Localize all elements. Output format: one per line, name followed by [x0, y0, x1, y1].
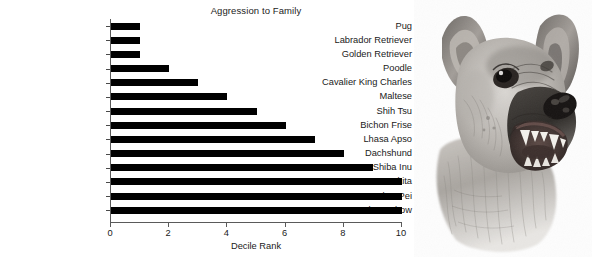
x-axis-tick-label: 4: [214, 228, 238, 238]
bar: [111, 178, 402, 185]
y-axis-tick: [106, 83, 110, 84]
y-axis-tick: [106, 54, 110, 55]
x-axis-tick-label: 0: [98, 228, 122, 238]
y-axis-tick: [106, 139, 110, 140]
x-axis-title: Decile Rank: [110, 241, 402, 251]
bar-chart-panel: Aggression to Family PugLabrador Retriev…: [0, 0, 412, 257]
x-axis-line: [110, 222, 402, 223]
dog-illustration-panel: [414, 0, 592, 257]
category-label: Golden Retriever: [308, 49, 412, 59]
y-axis-tick: [106, 196, 110, 197]
bar: [111, 65, 169, 72]
y-axis-tick: [106, 125, 110, 126]
bar: [111, 93, 227, 100]
x-axis-tick-label: 10: [389, 228, 413, 238]
category-label: Bichon Frise: [308, 120, 412, 130]
x-axis-tick: [226, 223, 227, 227]
category-label: Pug: [308, 21, 412, 31]
y-axis-tick: [106, 26, 110, 27]
y-axis-tick: [106, 69, 110, 70]
x-axis-tick: [343, 223, 344, 227]
bar: [111, 122, 286, 129]
y-axis-tick: [106, 168, 110, 169]
x-axis-tick: [285, 223, 286, 227]
y-axis-tick: [106, 97, 110, 98]
y-axis-tick: [106, 111, 110, 112]
category-label: Poodle: [308, 63, 412, 73]
y-axis-tick: [106, 210, 110, 211]
x-axis-tick: [401, 223, 402, 227]
x-axis-tick-label: 2: [156, 228, 180, 238]
bar: [111, 23, 140, 30]
x-axis-tick: [110, 223, 111, 227]
y-axis-tick: [106, 40, 110, 41]
category-label: Cavalier King Charles: [308, 77, 412, 87]
bar: [111, 150, 344, 157]
bar: [111, 207, 402, 214]
x-axis-tick-label: 8: [331, 228, 355, 238]
snarling-dog-sketch-image: [414, 0, 592, 257]
x-axis-tick-label: 6: [273, 228, 297, 238]
category-label: Labrador Retriever: [308, 35, 412, 45]
screenshot-root: Aggression to Family PugLabrador Retriev…: [0, 0, 592, 257]
bar: [111, 51, 140, 58]
y-axis-tick: [106, 182, 110, 183]
bar: [111, 193, 402, 200]
category-label: Maltese: [308, 91, 412, 101]
bar: [111, 164, 373, 171]
x-axis-tick: [168, 223, 169, 227]
bar: [111, 136, 315, 143]
plot-area: PugLabrador RetrieverGolden RetrieverPoo…: [0, 0, 412, 257]
y-axis-tick: [106, 154, 110, 155]
category-label: Shih Tsu: [308, 106, 412, 116]
category-label: Lhasa Apso: [308, 134, 412, 144]
bar: [111, 108, 257, 115]
bar: [111, 79, 198, 86]
bar: [111, 37, 140, 44]
